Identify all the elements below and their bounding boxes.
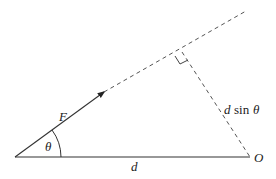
moment-arm-label: d sin θ (224, 102, 260, 117)
right-angle-marker (175, 56, 188, 64)
force-label: F (58, 109, 68, 124)
distance-label: d (131, 159, 138, 174)
moment-arm-angle: θ (253, 102, 260, 117)
pivot-label: O (254, 150, 264, 165)
moment-arm-var: d (224, 102, 231, 117)
moment-arm-fn: sin (234, 102, 250, 117)
line-of-action (104, 11, 246, 92)
torque-diagram: F θ d O d sin θ (0, 0, 276, 179)
angle-label: θ (45, 139, 52, 154)
angle-arc (52, 130, 61, 157)
